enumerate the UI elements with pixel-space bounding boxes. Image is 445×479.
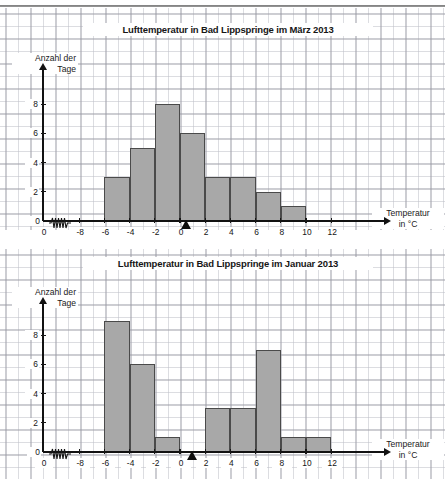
x-tick-label: -8	[70, 227, 90, 237]
x-tick-label: 2	[196, 227, 216, 237]
y-tick-label: 0	[27, 447, 41, 457]
x-tick-label: 4	[221, 227, 241, 237]
plot-area-januar: Lufttemperatur in Bad Lippspringe im Jan…	[0, 249, 445, 479]
y-tick	[41, 422, 46, 423]
x-tick-label: 2	[196, 458, 216, 468]
x-tick-label: -8	[70, 458, 90, 468]
bar	[281, 206, 306, 221]
y-tick	[41, 393, 46, 394]
chart-panel-januar: Lufttemperatur in Bad Lippspringe im Jan…	[0, 249, 445, 479]
y-axis	[42, 70, 44, 221]
x-tick	[331, 449, 332, 454]
x-tick-label: 8	[272, 458, 292, 468]
y-axis-caption-line1: Anzahl der	[14, 53, 76, 64]
x-tick	[305, 218, 306, 223]
x-axis	[43, 451, 384, 453]
x-tick	[205, 218, 206, 223]
bar	[180, 133, 205, 221]
y-axis	[42, 304, 44, 452]
x-tick-label: 8	[272, 227, 292, 237]
x-tick	[179, 449, 180, 454]
x-tick	[255, 218, 256, 223]
y-tick	[41, 133, 46, 134]
x-tick	[230, 218, 231, 223]
chart-title: Lufttemperatur in Bad Lippspringe im Mär…	[83, 23, 373, 36]
plot-area-maerz: Lufttemperatur in Bad Lippspringe im Mär…	[0, 8, 445, 230]
bar	[281, 437, 306, 452]
chart-title: Lufttemperatur in Bad Lippspringe im Jan…	[83, 257, 373, 270]
y-tick-label: 8	[25, 99, 39, 109]
x-axis-caption: Temperaturin °C	[372, 439, 444, 460]
y-tick-label: 4	[25, 158, 39, 168]
x-tick-label: -2	[146, 227, 166, 237]
x-axis-caption: Temperaturin °C	[372, 208, 444, 229]
bar	[104, 177, 129, 221]
bar	[205, 177, 230, 221]
bar	[205, 408, 230, 452]
value-marker-triangle	[187, 451, 197, 460]
y-tick-label: 6	[25, 359, 39, 369]
x-tick	[104, 449, 105, 454]
x-tick	[331, 218, 332, 223]
x-tick-label: 10	[297, 227, 317, 237]
bar	[306, 437, 331, 452]
chart-panel-maerz: Lufttemperatur in Bad Lippspringe im Mär…	[0, 8, 445, 230]
bar	[130, 364, 155, 452]
x-tick	[154, 218, 155, 223]
y-tick	[41, 104, 46, 105]
x-tick-label: -6	[95, 458, 115, 468]
y-tick	[41, 191, 46, 192]
x-axis-arrow	[384, 448, 391, 456]
x-tick	[104, 218, 105, 223]
x-axis	[43, 220, 384, 222]
x-tick	[280, 218, 281, 223]
x-tick-label: -2	[146, 458, 166, 468]
x-tick-label: 6	[247, 458, 267, 468]
x-tick	[79, 449, 80, 454]
axis-break-icon	[49, 446, 71, 464]
x-tick-label: 10	[297, 458, 317, 468]
x-tick	[230, 449, 231, 454]
y-tick-label: 6	[25, 128, 39, 138]
value-marker-triangle	[181, 220, 191, 229]
x-tick-label: -4	[121, 458, 141, 468]
y-axis-caption-line1: Anzahl der	[14, 287, 76, 298]
x-tick	[79, 218, 80, 223]
y-tick	[41, 364, 46, 365]
bar	[256, 192, 281, 221]
bar	[230, 177, 255, 221]
y-tick-label: 4	[25, 389, 39, 399]
bar	[155, 437, 180, 452]
axis-break-icon	[49, 215, 71, 233]
y-tick-label: 2	[25, 187, 39, 197]
x-axis-arrow	[384, 217, 391, 225]
x-tick	[280, 449, 281, 454]
x-tick	[305, 449, 306, 454]
x-tick	[129, 218, 130, 223]
y-tick-label: 0	[27, 216, 41, 226]
bar	[230, 408, 255, 452]
x-tick-label: 6	[247, 227, 267, 237]
x-tick-label: 4	[221, 458, 241, 468]
x-tick	[129, 449, 130, 454]
x-tick	[205, 449, 206, 454]
x-tick-label: -4	[121, 227, 141, 237]
bar	[130, 148, 155, 221]
x-tick	[255, 449, 256, 454]
x-tick-label: -6	[95, 227, 115, 237]
header-divider	[0, 5, 445, 7]
y-tick	[41, 162, 46, 163]
x-tick	[154, 449, 155, 454]
x-tick-label: 12	[322, 458, 342, 468]
y-axis-arrow	[39, 63, 47, 70]
y-tick	[41, 335, 46, 336]
y-tick-label: 8	[25, 330, 39, 340]
bar	[256, 350, 281, 452]
bar	[104, 321, 129, 452]
y-tick-label: 2	[25, 418, 39, 428]
x-tick-label: 12	[322, 227, 342, 237]
y-axis-arrow	[39, 297, 47, 304]
bar	[155, 104, 180, 221]
